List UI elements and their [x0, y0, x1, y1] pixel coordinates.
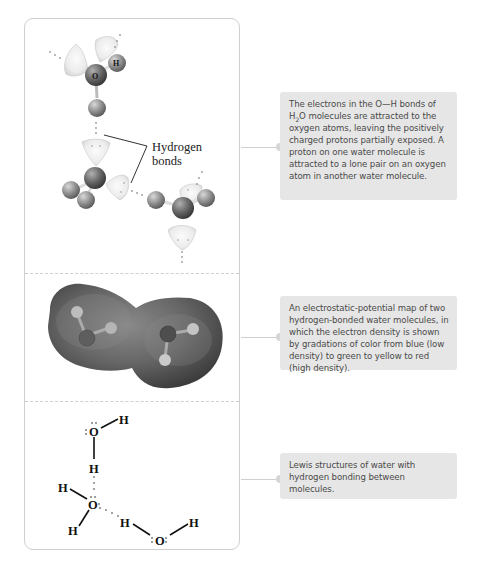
- oxygen-atom: [172, 197, 194, 219]
- hydrogen-bonds-label-line1: Hydrogen: [152, 140, 202, 154]
- water-molecule-right: [147, 171, 215, 263]
- lewis-oxygen-middle: O: [88, 498, 98, 512]
- electrostatic-potential-map: [48, 284, 223, 389]
- lone-pair-lobe: [64, 44, 88, 76]
- water-molecule-middle: [62, 139, 143, 209]
- lewis-hydrogen: H: [68, 524, 78, 538]
- hydrogen-atom: [62, 181, 80, 199]
- hydrogen-atom: [187, 323, 199, 335]
- lewis-oxygen-right: O: [155, 534, 165, 548]
- hydrogen-bond-dots: [131, 190, 143, 196]
- water-molecule-top: O H: [49, 34, 126, 134]
- hydrogen-bonds-label-line2: bonds: [152, 154, 202, 168]
- covalent-bond: [101, 419, 118, 428]
- oxygen-symbol: O: [92, 72, 98, 81]
- lone-pair-lobe: [168, 226, 196, 251]
- hydrogen-atom: [77, 191, 95, 209]
- lewis-hydrogen: H: [58, 481, 68, 495]
- covalent-bond: [79, 510, 89, 526]
- hydrogen-atom: [197, 189, 215, 207]
- lewis-oxygen-top: O: [89, 425, 99, 439]
- callout-connector-1: [241, 147, 281, 148]
- lewis-hydrogen: H: [119, 413, 129, 427]
- hydrogen-atom: [71, 306, 83, 318]
- lewis-hydrogen: H: [189, 516, 199, 530]
- lewis-structures: O H H O H H H O H: [58, 413, 199, 548]
- lewis-hydrogen: H: [89, 462, 99, 476]
- covalent-bond: [133, 524, 150, 535]
- covalent-bond: [70, 489, 87, 499]
- hydrogen-bonds-label: Hydrogen bonds: [152, 140, 202, 168]
- callout-lewis-structures: Lewis structures of water with hydrogen …: [280, 453, 457, 499]
- hydrogen-atom: [147, 191, 165, 209]
- hydrogen-atom: [105, 322, 117, 334]
- covalent-bond: [170, 524, 188, 535]
- oxygen-atom: [79, 330, 95, 346]
- lone-pair-lobe: [106, 175, 129, 200]
- hydrogen-symbol: H: [113, 59, 120, 68]
- callout-hydrogen-bonding: The electrons in the O—H bonds of H2O mo…: [280, 92, 457, 200]
- hydrogen-atom: [88, 99, 106, 117]
- callout-text-part: O molecules are attracted to the oxygen …: [289, 111, 446, 181]
- callout-connector-3: [241, 479, 281, 480]
- lone-pair-lobe: [82, 139, 110, 166]
- oxygen-atom: [160, 326, 176, 342]
- callout-electrostatic-map: An electrostatic-potential map of two hy…: [280, 296, 457, 370]
- callout-connector-2: [241, 337, 281, 338]
- lewis-hydrogen: H: [120, 516, 130, 530]
- oxygen-atom: [84, 167, 106, 189]
- hydrogen-atom: [159, 354, 171, 366]
